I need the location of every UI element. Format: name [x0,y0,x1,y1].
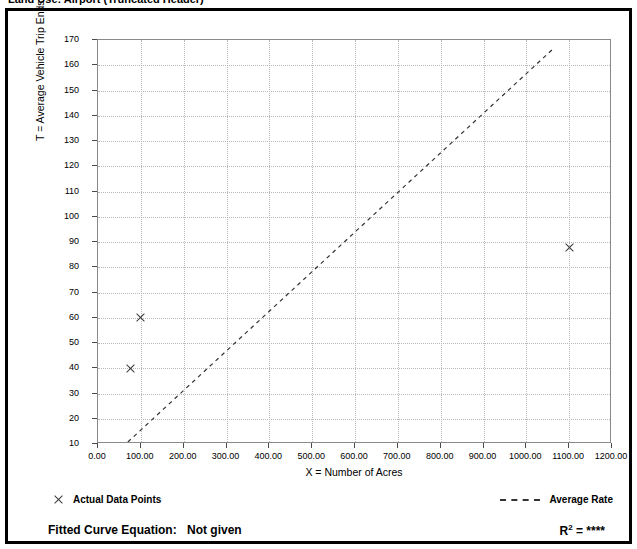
gridline-horizontal [98,343,610,344]
gridline-vertical [184,40,185,442]
x-axis-tick-label: 1100.00 [552,451,584,461]
x-axis-tick-label: 1000.00 [509,451,542,461]
y-axis-tick-label: 60 [8,312,88,322]
x-axis-tick [440,443,441,448]
gridline-vertical [141,40,142,442]
y-axis-tick-label: 30 [8,388,88,398]
y-axis-tick [92,39,97,40]
x-axis-tick [268,443,269,448]
x-axis-tick-label: 400.00 [255,451,283,461]
y-axis-tick-label: 90 [8,236,88,246]
legend: Actual Data Points Average Rate [8,494,635,518]
gridline-horizontal [98,141,610,142]
gridline-vertical [398,40,399,442]
gridline-vertical [484,40,485,442]
gridline-horizontal [98,217,610,218]
gridline-horizontal [98,318,610,319]
gridline-horizontal [98,368,610,369]
x-axis-tick [397,443,398,448]
x-axis-tick [568,443,569,448]
y-axis-tick [92,64,97,65]
y-axis-tick [92,393,97,394]
y-axis-tick [92,115,97,116]
y-axis-tick-label: 130 [8,135,88,145]
gridline-horizontal [98,293,610,294]
plot-area [97,39,611,443]
fitted-curve-equation: Fitted Curve Equation: Not given [48,523,242,537]
r-squared-value: R2 = **** [560,523,606,538]
y-axis-tick [92,216,97,217]
x-axis-tick [226,443,227,448]
y-axis-tick [92,241,97,242]
x-axis-tick [525,443,526,448]
fitted-curve-equation-value: Not given [187,523,242,537]
x-axis-tick-label: 0.00 [88,451,106,461]
legend-item-actual-data-points: Actual Data Points [53,494,161,505]
x-axis-tick-label: 1200.00 [595,451,628,461]
gridline-vertical [355,40,356,442]
y-axis-tick-label: 150 [8,85,88,95]
r-squared-asterisks: **** [586,524,605,538]
figure-frame: T = Average Vehicle Trip Ends 1020304050… [5,8,632,544]
gridline-horizontal [98,166,610,167]
gridline-horizontal [98,419,610,420]
x-marker-icon [53,494,64,505]
x-axis-tick-label: 200.00 [169,451,197,461]
y-axis-tick [92,418,97,419]
gridline-horizontal [98,65,610,66]
y-axis-tick-label: 100 [8,211,88,221]
y-axis-tick-label: 70 [8,287,88,297]
fitted-curve-equation-label: Fitted Curve Equation: [48,523,177,537]
y-axis-tick [92,90,97,91]
y-axis-tick-label: 10 [8,438,88,448]
x-axis-tick-label: 500.00 [297,451,325,461]
gridline-vertical [312,40,313,442]
average-rate-line [98,40,610,442]
gridline-horizontal [98,91,610,92]
gridline-vertical [569,40,570,442]
x-axis-tick [483,443,484,448]
y-axis-tick-label: 110 [8,186,88,196]
y-axis-tick-label: 140 [8,110,88,120]
gridline-vertical [269,40,270,442]
y-axis-tick [92,367,97,368]
legend-label-average-rate: Average Rate [549,494,613,505]
y-axis-tick-label: 170 [8,34,88,44]
gridline-horizontal [98,267,610,268]
x-axis-tick [611,443,612,448]
y-axis-tick-label: 20 [8,413,88,423]
y-axis-tick [92,342,97,343]
y-axis-tick-label: 120 [8,160,88,170]
y-axis-tick-label: 50 [8,337,88,347]
gridline-vertical [227,40,228,442]
x-axis-tick-label: 100.00 [126,451,154,461]
y-axis-tick [92,165,97,166]
gridline-horizontal [98,394,610,395]
gridline-horizontal [98,242,610,243]
y-axis-tick-label: 40 [8,362,88,372]
gridline-horizontal [98,192,610,193]
x-axis-tick [140,443,141,448]
x-axis-tick [354,443,355,448]
truncated-title-strip: Land Use: Airport (Truncated Header) [0,0,637,7]
r-squared-equals: = [573,524,587,538]
x-axis-tick-label: 800.00 [426,451,454,461]
x-axis-tick [97,443,98,448]
footer: Fitted Curve Equation: Not given R2 = **… [8,523,635,549]
r-squared-label: R [560,524,569,538]
x-axis-tick-label: 700.00 [383,451,411,461]
y-axis-tick [92,292,97,293]
x-axis-tick-label: 300.00 [212,451,240,461]
y-axis-tick-label: 80 [8,261,88,271]
x-axis-tick-label: 600.00 [340,451,368,461]
gridline-horizontal [98,116,610,117]
legend-item-average-rate: Average Rate [500,494,613,505]
y-axis-tick [92,140,97,141]
legend-label-actual-data-points: Actual Data Points [73,494,161,505]
y-axis-tick [92,317,97,318]
gridline-vertical [526,40,527,442]
dashed-line-icon [500,499,540,501]
x-axis-tick-label: 900.00 [469,451,497,461]
y-axis-tick [92,191,97,192]
x-axis-tick [183,443,184,448]
